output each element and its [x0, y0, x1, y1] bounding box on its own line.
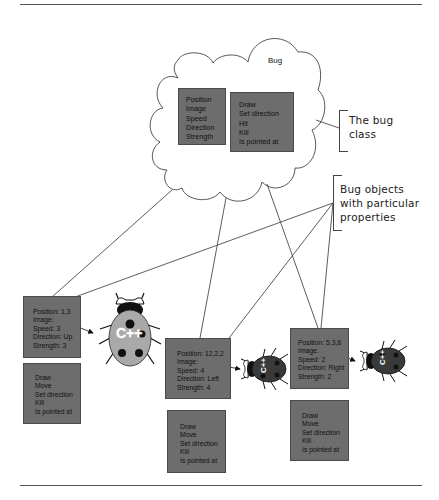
- object-property: Strength: 4: [177, 384, 230, 392]
- object-property: Speed: 3: [33, 325, 80, 333]
- object-property: Strength: 2: [298, 373, 348, 381]
- link-cloud-object-2: [200, 198, 226, 338]
- class-properties-box: Position Image Speed Direction Strength: [178, 88, 226, 145]
- class-method: Is pointed at: [239, 137, 293, 146]
- class-property: Direction: [186, 123, 225, 132]
- object-property: Image:: [177, 358, 230, 366]
- object-method: Kill: [35, 399, 80, 407]
- svg-text:C++: C++: [116, 325, 142, 341]
- object-method: Set direction: [180, 440, 225, 448]
- object-property: Position: 5,3,8: [298, 339, 348, 347]
- object-property: Image:: [33, 316, 80, 324]
- object-property: Speed: 2: [298, 356, 348, 364]
- class-title: Bug: [268, 56, 282, 65]
- object-property: Speed: 4: [177, 367, 230, 375]
- object-property: Direction: Right: [298, 364, 348, 372]
- object-method: Kill: [180, 448, 225, 456]
- class-note: The bug class: [349, 113, 393, 141]
- object-3-properties-box: Position: 5,3,8 Image: Speed: 2 Directio…: [290, 328, 349, 389]
- class-method: Kill: [239, 128, 293, 137]
- class-property: Image: [186, 104, 225, 113]
- object-method: Move: [302, 420, 348, 428]
- object-1-methods-box: Draw Move Set direction Kill Is pointed …: [23, 363, 81, 424]
- object-property: Strength: 3: [33, 342, 80, 350]
- object-property: Position: 12,2,2: [177, 350, 230, 358]
- ladybug-icon-1: C++: [99, 293, 161, 366]
- object-method: Set direction: [35, 391, 80, 399]
- link-note-object-3: [321, 203, 333, 328]
- class-method: Hit: [239, 119, 293, 128]
- object-method: Draw: [302, 412, 348, 420]
- objects-note-line: properties: [340, 210, 419, 224]
- bug-3-label: C++: [378, 350, 387, 365]
- class-note-bracket: [339, 110, 348, 152]
- bug-2-label: C++: [259, 358, 268, 373]
- link-cloud-object-1: [52, 190, 172, 297]
- object-3-methods-box: Draw Move Set direction Kill Is pointed …: [290, 400, 349, 461]
- object-method: Draw: [180, 423, 225, 431]
- class-note-line: class: [349, 127, 393, 141]
- object-property: Image:: [298, 347, 348, 355]
- object-property: Direction: Up: [33, 333, 80, 341]
- objects-note-line: Bug objects: [340, 182, 419, 196]
- class-property: Strength: [186, 132, 225, 141]
- object-2-properties-box: Position: 12,2,2 Image: Speed: 4 Directi…: [165, 338, 231, 399]
- class-property: Speed: [186, 114, 225, 123]
- object-method: Is pointed at: [35, 408, 80, 416]
- object-property: Position: 1,3: [33, 308, 80, 316]
- object-method: Is pointed at: [180, 457, 225, 465]
- objects-note: Bug objects with particular properties: [340, 182, 419, 224]
- object-property: Direction: Left: [177, 375, 230, 383]
- object-method: Kill: [302, 437, 348, 445]
- object-method: Move: [180, 431, 225, 439]
- object-method: Is pointed at: [302, 446, 348, 454]
- class-method: Draw: [239, 100, 293, 109]
- class-note-line: The bug: [349, 113, 393, 127]
- objects-note-line: with particular: [340, 196, 419, 210]
- object-method: Set direction: [302, 429, 348, 437]
- object-1-properties-box: Position: 1,3 Image: Speed: 3 Direction:…: [23, 296, 81, 358]
- object-2-methods-box: Draw Move Set direction Kill Is pointed …: [167, 410, 226, 473]
- object-method: Draw: [35, 374, 80, 382]
- class-method: Set direction: [239, 109, 293, 118]
- link-note-object-1: [75, 203, 333, 297]
- object-method: Move: [35, 382, 80, 390]
- class-property: Position: [186, 95, 225, 104]
- class-methods-box: Draw Set direction Hit Kill Is pointed a…: [230, 92, 294, 152]
